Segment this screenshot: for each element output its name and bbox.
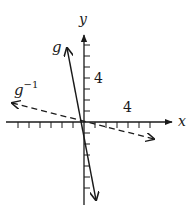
inverse-function-graph: x 4 y 4 g g−1 xyxy=(0,0,195,211)
curve-g-label: g xyxy=(52,38,62,56)
x-axis-label: x xyxy=(178,113,186,129)
y-axis: y 4 xyxy=(78,11,103,205)
x-axis: x 4 xyxy=(6,99,186,129)
curve-g-inverse-label-sup: −1 xyxy=(24,79,39,90)
y-tick-label-4: 4 xyxy=(94,70,103,86)
y-axis-label: y xyxy=(78,11,88,27)
curve-g-inverse-label: g−1 xyxy=(14,79,38,99)
x-tick-label-4: 4 xyxy=(123,99,132,115)
curve-g-inverse-label-base: g xyxy=(14,81,24,99)
